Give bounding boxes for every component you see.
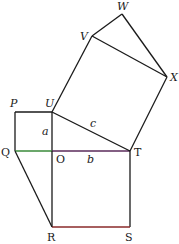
diagram-svg: P U Q O T R S V W X a b c [0,0,179,244]
label-O: O [56,153,65,166]
label-U: U [45,97,55,110]
segment-QR [15,151,52,227]
pythagorean-diagram: P U Q O T R S V W X a b c [0,0,179,244]
side-label-a: a [42,125,49,138]
side-label-c: c [90,117,96,130]
segment-UV [52,36,92,112]
label-W: W [117,0,130,13]
label-T: T [134,146,142,159]
label-S: S [125,231,133,244]
label-P: P [9,97,18,110]
label-V: V [80,30,89,43]
segment-XT [130,77,167,151]
segment-VW [92,14,122,36]
side-label-b: b [87,153,94,166]
label-Q: Q [1,146,10,159]
segment-WX [122,14,167,77]
label-R: R [47,231,56,244]
segment-VX [92,36,167,77]
label-X: X [169,71,179,84]
